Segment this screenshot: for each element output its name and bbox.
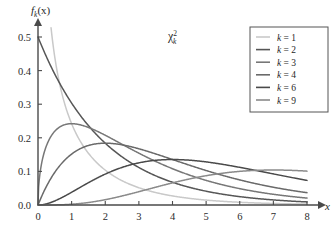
legend: k = 1k = 2k = 3k = 4k = 6k = 9 — [250, 27, 328, 112]
plot-canvas: 0123456780.00.10.20.30.40.5 fk(x) x χ2k … — [0, 0, 334, 238]
x-tick-label: 1 — [69, 211, 74, 222]
legend-label-k-1: k = 1 — [277, 33, 296, 43]
legend-label-k-3: k = 3 — [277, 58, 296, 68]
y-axis-title: fk(x) — [31, 4, 51, 19]
x-tick-label: 2 — [103, 211, 108, 222]
chi-squared-annotation: χ2k — [167, 29, 177, 46]
x-tick-label: 7 — [271, 211, 276, 222]
y-tick-label: 0.1 — [18, 166, 31, 177]
curve-k-3 — [38, 124, 307, 205]
y-tick-label: 0.2 — [18, 133, 31, 144]
x-axis-title: x — [324, 200, 330, 212]
y-tick-label: 0.5 — [18, 32, 31, 43]
x-tick-label: 6 — [237, 211, 242, 222]
x-tick-label: 3 — [136, 211, 141, 222]
y-tick-label: 0.4 — [18, 66, 32, 77]
legend-label-k-4: k = 4 — [277, 70, 296, 80]
x-tick-label: 4 — [170, 211, 176, 222]
x-tick-label: 8 — [304, 211, 309, 222]
y-axis-arrow-icon — [34, 18, 42, 26]
chi-squared-pdf-figure: 0123456780.00.10.20.30.40.5 fk(x) x χ2k … — [0, 0, 334, 238]
legend-label-k-9: k = 9 — [277, 96, 296, 106]
y-tick-label: 0.0 — [18, 200, 31, 211]
legend-label-k-2: k = 2 — [277, 45, 296, 55]
legend-label-k-6: k = 6 — [277, 83, 296, 93]
x-tick-label: 0 — [35, 211, 40, 222]
x-tick-label: 5 — [204, 211, 209, 222]
y-tick-label: 0.3 — [18, 99, 31, 110]
